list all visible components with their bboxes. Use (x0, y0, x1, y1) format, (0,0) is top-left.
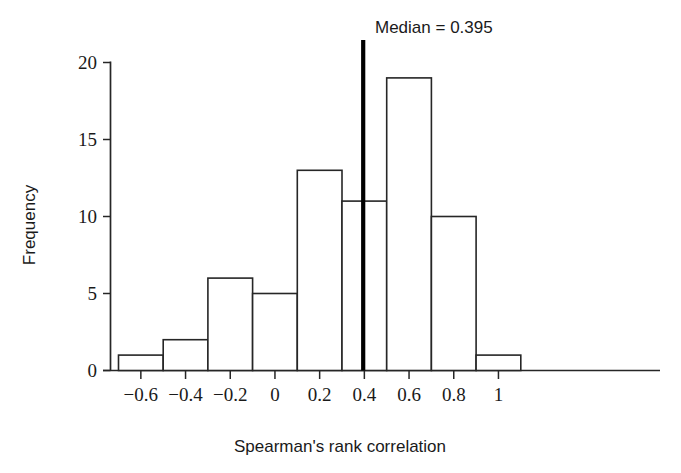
x-tick-label-0: 0 (270, 384, 280, 405)
x-tick-label-0-6: 0.6 (397, 384, 421, 405)
y-tick-label-20: 20 (78, 52, 97, 73)
x-axis-title: Spearman's rank correlation (234, 437, 446, 456)
y-axis-title: Frequency (20, 184, 39, 265)
table-row (387, 78, 432, 371)
x-tick-label-0-4: 0.4 (352, 384, 376, 405)
x-tick-label-1: 1 (494, 384, 504, 405)
y-tick-label-10: 10 (78, 206, 97, 227)
median-annotation-label: Median = 0.395 (375, 18, 493, 37)
table-row (208, 278, 253, 370)
histogram-bars (119, 78, 521, 371)
table-row (253, 294, 298, 371)
plot-canvas: 0 5 10 15 20 −0. (0, 0, 681, 473)
x-tick-label-0-8: 0.8 (442, 384, 466, 405)
x-tick-label-minus0-4: −0.4 (168, 384, 203, 405)
y-tick-label-0: 0 (88, 360, 98, 381)
table-row (431, 217, 476, 371)
x-tick-label-0-2: 0.2 (308, 384, 332, 405)
x-tick-label-minus0-2: −0.2 (213, 384, 247, 405)
histogram-figure: 0 5 10 15 20 −0. (0, 0, 681, 473)
table-row (297, 170, 342, 370)
y-axis-ticks (103, 63, 111, 371)
table-row (119, 355, 164, 370)
x-tick-label-minus0-6: −0.6 (124, 384, 158, 405)
x-axis-ticks (141, 371, 499, 380)
y-tick-label-15: 15 (78, 129, 97, 150)
y-tick-label-5: 5 (88, 283, 98, 304)
table-row (163, 340, 208, 371)
table-row (476, 355, 521, 370)
